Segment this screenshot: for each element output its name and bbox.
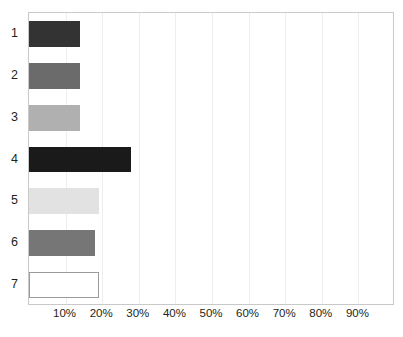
y-tick-label: 7: [11, 278, 18, 291]
x-tick-label: 80%: [309, 308, 332, 320]
bar-chart: 1234567 10%20%30%40%50%60%70%80%90%: [0, 0, 403, 337]
plot-area: [28, 12, 394, 305]
bar-2: [29, 63, 80, 89]
x-tick-label: 70%: [273, 308, 296, 320]
x-tick-label: 90%: [346, 308, 369, 320]
y-tick-label: 3: [11, 110, 18, 123]
x-tick-label: 20%: [90, 308, 113, 320]
y-tick-label: 4: [11, 152, 18, 165]
chart-title: [28, 0, 394, 8]
x-tick-label: 30%: [126, 308, 149, 320]
x-axis: 10%20%30%40%50%60%70%80%90%: [28, 308, 394, 328]
x-tick-label: 10%: [53, 308, 76, 320]
bar-6: [29, 230, 95, 256]
x-tick-label: 40%: [163, 308, 186, 320]
y-tick-label: 6: [11, 236, 18, 249]
bars-group: [29, 13, 393, 304]
y-tick-label: 2: [11, 69, 18, 82]
y-axis: 1234567: [0, 12, 26, 305]
bar-7: [29, 272, 99, 298]
y-tick-label: 5: [11, 194, 18, 207]
x-tick-label: 50%: [199, 308, 222, 320]
bar-3: [29, 105, 80, 131]
bar-1: [29, 21, 80, 47]
bar-5: [29, 188, 99, 214]
bar-4: [29, 147, 131, 173]
y-tick-label: 1: [11, 27, 18, 40]
x-tick-label: 60%: [236, 308, 259, 320]
